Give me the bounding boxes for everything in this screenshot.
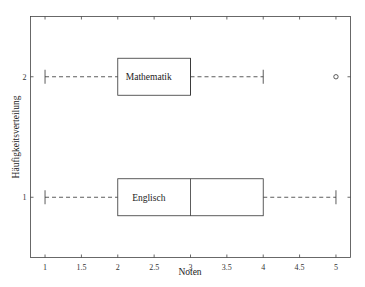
x-axis-ticks: 11.522.533.544.55 (43, 17, 338, 272)
x-tick-label: 1 (43, 263, 47, 272)
x-tick-label: 1.5 (76, 263, 86, 272)
x-tick-label: 4.5 (295, 263, 305, 272)
x-tick-label: 5 (334, 263, 338, 272)
x-tick-label: 3.5 (222, 263, 232, 272)
plot-frame (31, 17, 351, 258)
boxes: EnglischMathematik (45, 58, 338, 216)
x-tick-label: 4 (261, 263, 265, 272)
outlier-marker (334, 75, 338, 79)
box-label: Mathematik (126, 72, 172, 82)
box-label: Englisch (132, 193, 165, 203)
x-tick-label: 2 (116, 263, 120, 272)
y-tick-label: 2 (23, 73, 27, 82)
x-axis-title: Noten (178, 267, 201, 277)
box-mathematik: Mathematik (45, 58, 338, 95)
box-englisch: Englisch (45, 179, 336, 216)
y-tick-label: 1 (23, 193, 27, 202)
y-axis-title: Häufigkeitsverteilung (11, 95, 21, 178)
x-tick-label: 2.5 (149, 263, 159, 272)
boxplot-chart: 11.522.533.544.55 12 EnglischMathematik … (0, 0, 365, 287)
